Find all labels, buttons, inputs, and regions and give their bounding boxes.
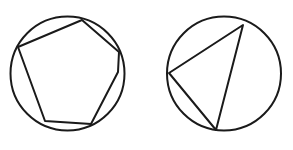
inscribed-polygons-figure (0, 0, 293, 150)
